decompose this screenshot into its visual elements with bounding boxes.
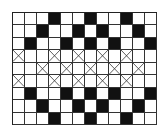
filled-cell xyxy=(97,25,109,37)
crossed-cell xyxy=(49,75,61,87)
filled-cell xyxy=(25,38,37,50)
cross-mark-icon xyxy=(133,63,144,74)
filled-cell xyxy=(85,88,97,100)
empty-cell xyxy=(121,100,133,112)
filled-cell xyxy=(85,38,97,50)
crossed-cell xyxy=(97,50,109,62)
empty-cell xyxy=(133,75,145,87)
empty-cell xyxy=(25,50,37,62)
empty-cell xyxy=(121,25,133,37)
filled-cell xyxy=(109,88,121,100)
empty-cell xyxy=(109,25,121,37)
filled-cell xyxy=(145,88,157,100)
empty-cell xyxy=(97,13,109,25)
empty-cell xyxy=(133,113,145,125)
empty-cell xyxy=(133,50,145,62)
filled-cell xyxy=(133,25,145,37)
empty-cell xyxy=(25,113,37,125)
empty-cell xyxy=(97,88,109,100)
empty-cell xyxy=(13,100,25,112)
empty-cell xyxy=(37,88,49,100)
empty-cell xyxy=(25,100,37,112)
empty-cell xyxy=(109,50,121,62)
empty-cell xyxy=(13,13,25,25)
empty-cell xyxy=(49,25,61,37)
empty-cell xyxy=(73,88,85,100)
empty-cell xyxy=(133,88,145,100)
crossed-cell xyxy=(73,50,85,62)
crossed-cell xyxy=(133,63,145,75)
empty-cell xyxy=(73,38,85,50)
empty-cell xyxy=(13,88,25,100)
filled-cell xyxy=(133,100,145,112)
filled-cell xyxy=(25,88,37,100)
empty-cell xyxy=(133,38,145,50)
empty-cell xyxy=(25,13,37,25)
empty-cell xyxy=(133,13,145,25)
empty-cell xyxy=(121,88,133,100)
empty-cell xyxy=(25,75,37,87)
cross-mark-icon xyxy=(13,75,24,86)
empty-cell xyxy=(49,38,61,50)
crossed-cell xyxy=(85,63,97,75)
empty-cell xyxy=(61,13,73,25)
empty-cell xyxy=(37,113,49,125)
empty-cell xyxy=(37,13,49,25)
empty-cell xyxy=(61,113,73,125)
empty-cell xyxy=(97,63,109,75)
filled-cell xyxy=(37,100,49,112)
empty-cell xyxy=(109,100,121,112)
cross-mark-icon xyxy=(61,63,72,74)
filled-cell xyxy=(49,113,61,125)
empty-cell xyxy=(61,75,73,87)
filled-cell xyxy=(85,13,97,25)
empty-cell xyxy=(37,38,49,50)
filled-cell xyxy=(97,100,109,112)
crossed-cell xyxy=(121,75,133,87)
cross-mark-icon xyxy=(73,75,84,86)
empty-cell xyxy=(145,25,157,37)
filled-cell xyxy=(61,88,73,100)
cross-mark-icon xyxy=(97,75,108,86)
filled-cell xyxy=(61,38,73,50)
empty-cell xyxy=(109,75,121,87)
weave-pattern-grid xyxy=(12,12,157,125)
cross-mark-icon xyxy=(121,50,132,61)
empty-cell xyxy=(13,63,25,75)
empty-cell xyxy=(13,38,25,50)
filled-cell xyxy=(145,38,157,50)
empty-cell xyxy=(121,38,133,50)
empty-cell xyxy=(145,113,157,125)
empty-cell xyxy=(61,50,73,62)
filled-cell xyxy=(49,13,61,25)
filled-cell xyxy=(73,25,85,37)
cross-mark-icon xyxy=(97,50,108,61)
cross-mark-icon xyxy=(121,75,132,86)
empty-cell xyxy=(85,25,97,37)
crossed-cell xyxy=(73,75,85,87)
empty-cell xyxy=(109,13,121,25)
empty-cell xyxy=(97,38,109,50)
empty-cell xyxy=(85,100,97,112)
empty-cell xyxy=(61,100,73,112)
empty-cell xyxy=(73,13,85,25)
crossed-cell xyxy=(37,63,49,75)
empty-cell xyxy=(73,63,85,75)
empty-cell xyxy=(13,25,25,37)
filled-cell xyxy=(85,113,97,125)
empty-cell xyxy=(97,113,109,125)
crossed-cell xyxy=(97,75,109,87)
crossed-cell xyxy=(13,75,25,87)
crossed-cell xyxy=(109,63,121,75)
empty-cell xyxy=(145,75,157,87)
empty-cell xyxy=(73,113,85,125)
empty-cell xyxy=(49,63,61,75)
empty-cell xyxy=(49,88,61,100)
empty-cell xyxy=(61,25,73,37)
empty-cell xyxy=(145,63,157,75)
empty-cell xyxy=(37,50,49,62)
filled-cell xyxy=(73,100,85,112)
cross-mark-icon xyxy=(85,63,96,74)
crossed-cell xyxy=(49,50,61,62)
empty-cell xyxy=(25,63,37,75)
